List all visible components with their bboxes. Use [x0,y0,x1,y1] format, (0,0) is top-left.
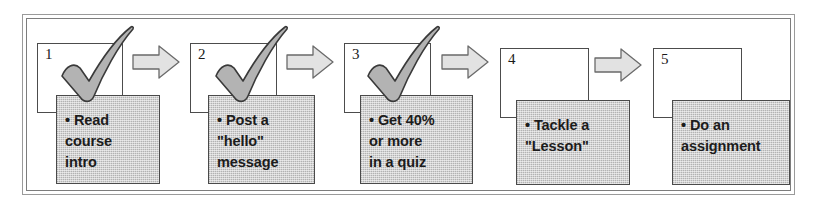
arrow-1-to-2 [132,45,180,79]
step-task-text-4: • Tackle a "Lesson" [525,115,629,157]
step-task-text-2: • Post a "hello" message [217,110,314,173]
step-task-text-1: • Read course intro [65,110,159,173]
step-task-box-5[interactable]: • Do an assignment [672,100,790,185]
step-task-box-1[interactable]: • Read course intro [56,95,160,184]
step-number-label-4: 4 [508,52,516,67]
step-number-label-5: 5 [661,52,669,67]
step-number-label-2: 2 [198,47,206,62]
diagram-canvas: 1 • Read course intro 2 • Post a "hello"… [0,0,816,212]
step-task-box-2[interactable]: • Post a "hello" message [208,95,315,184]
arrow-4-to-5 [594,48,642,82]
step-task-box-3[interactable]: • Get 40% or more in a quiz [360,95,473,184]
arrow-2-to-3 [286,45,334,79]
step-number-label-1: 1 [45,47,53,62]
step-task-text-3: • Get 40% or more in a quiz [369,110,472,173]
arrow-3-to-4 [441,45,489,79]
step-number-label-3: 3 [352,47,360,62]
step-task-text-5: • Do an assignment [681,115,789,157]
step-task-box-4[interactable]: • Tackle a "Lesson" [516,100,630,185]
